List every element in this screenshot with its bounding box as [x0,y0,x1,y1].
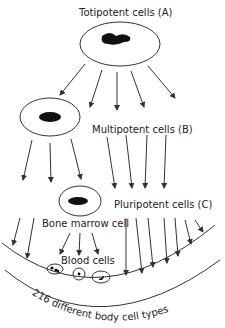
totipotent-label: Totipotent cells (A) [79,7,172,18]
body-cell-types-label: 216 different body cell types [30,287,169,323]
bone-marrow-cell [59,186,101,216]
inner-arc [2,225,215,277]
blood-cells-group [47,264,110,283]
bone-marrow-label: Bone marrow cell [42,218,129,229]
arrows-from-second-cell [23,139,81,182]
arrows-from-totipotent [60,64,175,110]
multipotent-label: Multipotent cells (B) [92,124,193,135]
nucleus-icon [68,197,88,205]
arrows-from-multipotent [107,135,166,188]
totipotent-cell [80,22,160,66]
diagram-canvas: 216 different body cell types [0,0,225,328]
nucleus-icon [102,33,131,45]
multipotent-cell [20,98,80,136]
nucleus-icon [39,112,61,122]
pluripotent-label: Pluripotent cells (C) [114,199,212,210]
blood-cells-label: Blood cells [61,255,115,266]
